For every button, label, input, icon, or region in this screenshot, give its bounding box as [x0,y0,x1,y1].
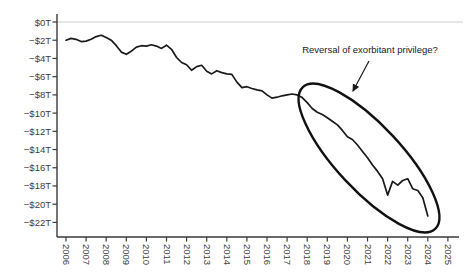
y-axis-label: −$10T [5,108,51,119]
x-axis-label: 2018 [302,244,312,265]
x-axis-label: 2021 [363,244,373,265]
x-axis-label: 2008 [101,244,111,265]
x-axis-label: 2011 [162,244,172,264]
niip-data-line [66,35,428,216]
x-axis-label: 2019 [322,244,332,265]
y-axis-label: −$20T [5,199,51,210]
x-axis-label: 2017 [282,244,292,265]
x-axis-label: 2007 [81,244,91,265]
y-axis-label: −$22T [5,217,51,228]
annotation-text: Reversal of exorbitant privilege? [285,44,455,56]
chart-canvas [0,0,470,277]
x-axis-label: 2022 [383,244,393,265]
x-axis-label: 2023 [403,244,413,265]
y-axis-label: −$2T [5,35,51,46]
highlight-ellipse [279,65,459,251]
y-axis-label: −$18T [5,180,51,191]
y-axis-label: $0T [5,17,51,28]
chart-figure: $0T−$2T−$4T−$6T−$8T−$10T−$12T−$14T−$16T−… [0,0,470,277]
y-axis-label: −$8T [5,89,51,100]
x-axis-label: 2020 [342,244,352,265]
x-axis-label: 2014 [222,244,232,265]
y-axis-label: −$14T [5,144,51,155]
y-axis-label: −$12T [5,126,51,137]
y-axis-label: −$4T [5,53,51,64]
x-axis-label: 2009 [121,244,131,265]
x-axis-label: 2015 [242,244,252,265]
x-axis-label: 2016 [262,244,272,265]
annotation-arrow-icon [353,61,369,91]
x-axis-label: 2024 [423,244,433,265]
y-axis-label: −$16T [5,162,51,173]
x-axis-label: 2012 [182,244,192,265]
x-axis-label: 2010 [141,244,151,265]
x-axis-label: 2006 [61,244,71,265]
y-axis-label: −$6T [5,71,51,82]
x-axis-label: 2013 [202,244,212,265]
x-axis-label: 2025 [443,244,453,265]
